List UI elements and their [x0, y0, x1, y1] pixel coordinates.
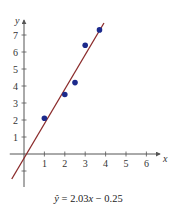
- y-tick-label: 1: [13, 132, 18, 143]
- scatter-plot: xy 1234561234567: [0, 0, 177, 207]
- y-tick-label: 5: [13, 64, 18, 75]
- x-tick-label: 2: [62, 158, 67, 169]
- y-tick-label: 4: [13, 81, 18, 92]
- data-point: [72, 80, 78, 86]
- y-tick-label: 2: [13, 115, 18, 126]
- x-axis-label: x: [162, 153, 168, 164]
- y-tick-label: 6: [13, 47, 18, 58]
- regression-line-path: [12, 23, 104, 179]
- equation-slope: 2.03: [70, 193, 88, 204]
- regression-line: [12, 23, 104, 179]
- data-point: [82, 42, 88, 48]
- equation-equals: =: [59, 193, 70, 204]
- x-tick-label: 3: [83, 158, 88, 169]
- x-tick-label: 5: [124, 158, 129, 169]
- y-axis-label: y: [14, 15, 20, 26]
- regression-equation: ŷ = 2.03x − 0.25: [0, 193, 177, 204]
- data-point: [42, 116, 48, 122]
- equation-intercept: 0.25: [104, 193, 122, 204]
- x-tick-label: 6: [144, 158, 149, 169]
- equation-minus: −: [93, 193, 104, 204]
- x-tick-label: 1: [42, 158, 47, 169]
- y-tick-label: 3: [13, 98, 18, 109]
- x-tick-label: 4: [103, 158, 108, 169]
- y-tick-label: 7: [13, 30, 18, 41]
- data-point: [97, 27, 103, 33]
- ticks: 1234561234567: [13, 30, 149, 172]
- data-point: [62, 92, 68, 98]
